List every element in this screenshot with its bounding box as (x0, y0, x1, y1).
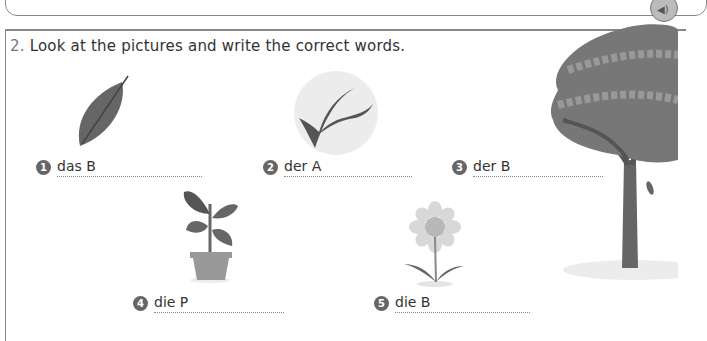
tree-picture (548, 20, 678, 290)
item-number-badge: 5 (374, 296, 389, 311)
answer-field-3[interactable]: der B (473, 158, 603, 177)
item-number-badge: 3 (452, 160, 467, 175)
item-number-badge: 2 (263, 160, 278, 175)
exercise-number: 2. (10, 37, 25, 55)
answer-field-2[interactable]: der A (284, 158, 412, 177)
leaf-picture (72, 74, 132, 150)
answer-field-5[interactable]: die B (395, 294, 530, 313)
item-number-badge: 4 (133, 296, 148, 311)
answer-item-5: 5 die B (374, 294, 530, 313)
answer-item-2: 2 der A (263, 158, 412, 177)
answer-item-3: 3 der B (452, 158, 603, 177)
exercise-instruction: 2. Look at the pictures and write the co… (10, 37, 405, 55)
potted-plant-picture (180, 184, 244, 284)
flower-picture (400, 200, 470, 290)
speaker-icon[interactable]: ◀) (650, 0, 678, 22)
answer-prefix: das B (57, 158, 96, 174)
answer-prefix: die B (395, 294, 430, 310)
item-number-badge: 1 (36, 160, 51, 175)
answer-field-1[interactable]: das B (57, 158, 202, 177)
previous-exercise-box (5, 0, 707, 16)
answer-item-4: 4 die P (133, 294, 284, 313)
branch-picture (293, 70, 379, 156)
answer-prefix: die P (154, 294, 188, 310)
answer-field-4[interactable]: die P (154, 294, 284, 313)
answer-prefix: der A (284, 158, 321, 174)
instruction-text: Look at the pictures and write the corre… (30, 37, 406, 55)
answer-item-1: 1 das B (36, 158, 202, 177)
answer-prefix: der B (473, 158, 510, 174)
